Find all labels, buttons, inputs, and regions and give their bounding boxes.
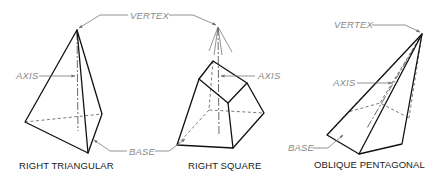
hidden-base-edge bbox=[177, 110, 209, 145]
outline-edges bbox=[177, 79, 264, 148]
outline-edges bbox=[25, 30, 102, 153]
top-face bbox=[199, 61, 247, 103]
hidden-base-edges bbox=[327, 103, 409, 135]
axis-line bbox=[77, 32, 78, 131]
axis-label-triangular: AXIS bbox=[15, 70, 39, 81]
axis-line bbox=[218, 28, 219, 136]
vertex-leader-oblique bbox=[372, 25, 420, 32]
base-leader-left bbox=[94, 140, 127, 151]
vertex-label-oblique: VERTEX bbox=[334, 19, 374, 30]
caption-right-triangular: RIGHT TRIANGULAR bbox=[19, 160, 114, 171]
front-lateral-edge bbox=[228, 103, 233, 148]
axis-label-oblique: AXIS bbox=[332, 77, 356, 88]
vertex-label: VERTEX bbox=[130, 10, 170, 21]
base-label-oblique: BASE bbox=[288, 142, 315, 153]
vertex-leader-right bbox=[169, 15, 216, 25]
pyramid-types-diagram: VERTEX AXIS AXIS BASE VERTEX AXIS BASE R… bbox=[0, 0, 440, 183]
captions: RIGHT TRIANGULAR RIGHT SQUARE OBLIQUE PE… bbox=[19, 159, 425, 171]
right-square-pyramid bbox=[177, 27, 264, 148]
vertex-leader-left bbox=[79, 15, 128, 28]
base-label: BASE bbox=[129, 146, 156, 157]
hidden-back-edges bbox=[209, 61, 264, 113]
caption-right-square: RIGHT SQUARE bbox=[188, 160, 261, 171]
right-triangular-pyramid bbox=[25, 30, 102, 153]
axis-label-square: AXIS bbox=[257, 70, 281, 81]
caption-oblique-pentagonal: OBLIQUE PENTAGONAL bbox=[314, 159, 425, 170]
hidden-base-edge bbox=[25, 114, 102, 122]
